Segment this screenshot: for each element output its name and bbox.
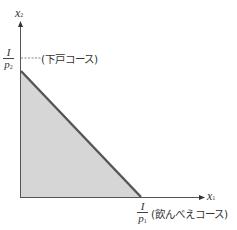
x-intercept-denominator: p1: [138, 214, 147, 226]
x-intercept-annotation: (飲んべえコース): [151, 206, 228, 221]
y-intercept-annotation: (下戸コース): [41, 51, 98, 66]
y-intercept-fraction: I p2: [3, 48, 14, 72]
y-intercept-denominator-sub: 2: [10, 64, 13, 70]
y-intercept-denominator: p2: [4, 60, 13, 72]
y-axis-arrow-icon: [18, 21, 23, 27]
x-axis-label-sub: 1: [212, 195, 215, 201]
y-axis-label: x2: [15, 6, 23, 21]
x-intercept-fraction: I p1: [137, 202, 148, 226]
budget-set-diagram: [0, 0, 237, 230]
x-axis-arrow-icon: [199, 195, 205, 200]
x-axis-label: x1: [207, 189, 215, 204]
y-intercept-numerator: I: [6, 48, 12, 57]
x-intercept-denominator-sub: 1: [144, 218, 147, 224]
x-intercept-numerator: I: [140, 202, 146, 211]
y-axis-label-sub: 2: [20, 12, 23, 18]
